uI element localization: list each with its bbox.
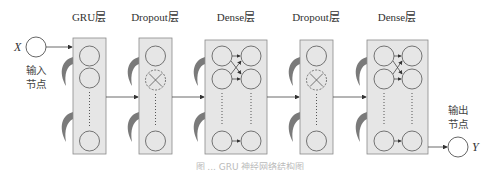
dropout-layer-2: [300, 40, 333, 154]
layer-title-dropout-2: Dropout层: [292, 11, 340, 23]
gru-network-diagram: GRU层 Dropout层 Dense层 Dropout层 Dense层 X 输…: [0, 0, 494, 170]
figure-caption: 图 ... GRU 神经网络结构图: [196, 161, 305, 170]
layer-title-gru: GRU层: [72, 11, 106, 23]
dense-layer-2: [367, 40, 428, 154]
output-label-line2: 节点: [448, 118, 468, 130]
layer-title-dense-1: Dense层: [217, 11, 256, 23]
output-label-line1: 输出: [448, 104, 468, 116]
dense-layer-1: [205, 40, 267, 154]
output-node: [448, 137, 468, 157]
dropout-layer-1: [139, 38, 172, 154]
input-label-line2: 节点: [26, 78, 46, 90]
input-node: [26, 37, 46, 57]
gru-layer: [73, 38, 106, 154]
input-label-line1: 输入: [26, 64, 47, 76]
input-symbol: X: [13, 40, 22, 54]
layer-title-dense-2: Dense层: [378, 11, 417, 23]
layer-title-dropout-1: Dropout层: [131, 11, 179, 23]
output-symbol: Y: [472, 140, 480, 154]
